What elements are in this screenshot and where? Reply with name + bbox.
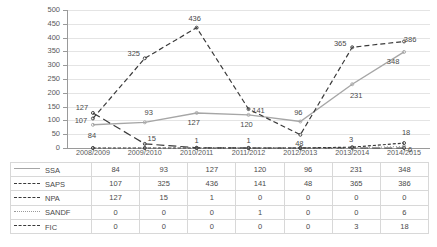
table-cell: 0: [188, 219, 236, 233]
legend-cell-npa[interactable]: NPA: [11, 191, 92, 205]
table-cell: 15: [140, 191, 188, 205]
series-lines: [0, 0, 437, 158]
data-label: 141: [252, 107, 265, 115]
table-cell: 0: [92, 205, 140, 219]
table-cell: 0: [236, 191, 284, 205]
data-table-wrapper: SSA849312712096231348SAPS107325436141483…: [10, 162, 429, 234]
table-cell: 0: [332, 205, 380, 219]
legend-label: FIC: [45, 222, 57, 231]
data-label: 48: [295, 140, 303, 148]
data-table: SSA849312712096231348SAPS107325436141483…: [10, 162, 429, 234]
legend-cell-sandf[interactable]: SANDF: [11, 205, 92, 219]
table-cell: 0: [284, 219, 332, 233]
table-cell: 0: [188, 205, 236, 219]
table-row: SAPS10732543614148365386: [11, 177, 429, 191]
table-row: SSA849312712096231348: [11, 163, 429, 177]
table-row: SANDF0001006: [11, 205, 429, 219]
legend-line-icon: [14, 211, 40, 212]
legend-cell-fic[interactable]: FIC: [11, 219, 92, 233]
table-cell: 6: [380, 205, 428, 219]
table-cell: 348: [380, 163, 428, 177]
legend-line-icon: [14, 225, 40, 226]
table-cell: 231: [332, 163, 380, 177]
table-cell: 96: [284, 163, 332, 177]
table-row: FIC00000318: [11, 219, 429, 233]
table-cell: 325: [140, 177, 188, 191]
data-label: 93: [145, 109, 153, 117]
table-cell: 0: [140, 205, 188, 219]
data-label: 348: [387, 58, 400, 66]
data-point-saps: [143, 57, 146, 60]
series-line-ssa: [93, 52, 404, 125]
legend-line-icon: [14, 168, 40, 169]
table-cell: 0: [284, 191, 332, 205]
table-cell: 386: [380, 177, 428, 191]
data-label: 18: [402, 129, 410, 137]
legend-label: SANDF: [45, 208, 70, 217]
table-cell: 0: [92, 219, 140, 233]
data-label: 127: [76, 104, 89, 112]
data-label: 107: [75, 117, 88, 125]
table-cell: 1: [188, 191, 236, 205]
table-cell: 436: [188, 177, 236, 191]
line-chart: 500450400350300250200150100500 2008/2009…: [0, 0, 437, 158]
table-cell: 93: [140, 163, 188, 177]
data-table-body: SSA849312712096231348SAPS107325436141483…: [11, 163, 429, 234]
legend-line-icon: [14, 183, 40, 184]
table-cell: 0: [140, 219, 188, 233]
data-label: 386: [404, 36, 417, 44]
legend-cell-ssa[interactable]: SSA: [11, 163, 92, 177]
data-label: 1: [195, 137, 199, 145]
data-label: 84: [88, 132, 96, 140]
data-label: 127: [187, 119, 200, 127]
table-cell: 0: [236, 219, 284, 233]
data-label: 3: [349, 136, 353, 144]
legend-label: NPA: [45, 194, 60, 203]
legend-cell-saps[interactable]: SAPS: [11, 177, 92, 191]
table-row: NPA1271510000: [11, 191, 429, 205]
data-label: 15: [148, 135, 156, 143]
data-label: 365: [334, 40, 347, 48]
data-label: 120: [240, 121, 253, 129]
table-cell: 0: [380, 191, 428, 205]
table-cell: 1: [236, 205, 284, 219]
legend-line-icon: [14, 197, 40, 198]
data-label: 231: [350, 92, 363, 100]
table-cell: 127: [92, 191, 140, 205]
data-point-saps: [299, 133, 302, 136]
table-cell: 120: [236, 163, 284, 177]
legend-label: SAPS: [45, 180, 65, 189]
table-cell: 107: [92, 177, 140, 191]
table-cell: 3: [332, 219, 380, 233]
legend-label: SSA: [45, 165, 60, 174]
table-cell: 0: [284, 205, 332, 219]
table-cell: 0: [332, 191, 380, 205]
data-label: 6: [408, 146, 412, 154]
table-cell: 127: [188, 163, 236, 177]
table-cell: 18: [380, 219, 428, 233]
data-label: 96: [294, 109, 302, 117]
data-label: 1: [246, 137, 250, 145]
data-label: 325: [128, 50, 141, 58]
data-label: 436: [188, 15, 201, 23]
table-cell: 365: [332, 177, 380, 191]
table-cell: 84: [92, 163, 140, 177]
table-cell: 141: [236, 177, 284, 191]
table-cell: 48: [284, 177, 332, 191]
chart-page: 500450400350300250200150100500 2008/2009…: [0, 0, 437, 247]
